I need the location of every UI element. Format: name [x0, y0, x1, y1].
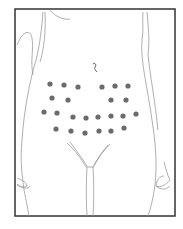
injection-point-dot: [121, 125, 126, 130]
injection-point-dot: [120, 113, 125, 118]
injection-point-dot: [96, 128, 101, 133]
injection-point-dot: [108, 128, 113, 133]
injection-point-dot: [61, 82, 66, 87]
injection-point-dot: [82, 130, 87, 135]
injection-point-dot: [125, 83, 130, 88]
injection-point-dot: [47, 81, 52, 86]
navel-icon: [93, 63, 97, 72]
injection-point-dot: [75, 84, 80, 89]
injection-point-dot: [54, 110, 59, 115]
injection-point-dot: [112, 83, 117, 88]
body-outline: [17, 10, 170, 216]
injection-point-dot: [41, 109, 46, 114]
injection-point-dot: [49, 95, 54, 100]
injection-points: [41, 81, 138, 135]
injection-point-dot: [108, 113, 113, 118]
injection-point-dot: [65, 97, 70, 102]
body-diagram: [0, 0, 183, 229]
injection-point-dot: [83, 115, 88, 120]
injection-point-dot: [68, 128, 73, 133]
injection-point-dot: [108, 97, 113, 102]
injection-point-dot: [53, 126, 58, 131]
injection-point-dot: [99, 84, 104, 89]
injection-point-dot: [133, 111, 138, 116]
injection-point-dot: [70, 114, 75, 119]
injection-point-dot: [123, 97, 128, 102]
injection-point-dot: [95, 114, 100, 119]
